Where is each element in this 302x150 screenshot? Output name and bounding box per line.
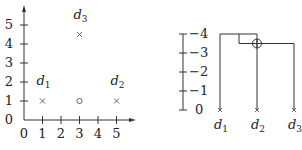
y-tick-label: 3 [5,55,13,70]
y-axis-arrow-icon [22,5,26,12]
figure: 012345012345 d1d2d3 0−1−2−3−4 d1d2d3 [0,0,302,150]
x-tick-label: 5 [112,126,120,141]
cross-marker [77,32,82,37]
dendrogram-tick-label: 0 [195,102,203,117]
point-label: d3 [74,7,88,24]
y-tick-label: 5 [5,17,13,32]
leaf-label: d3 [288,117,302,134]
y-tick-label: 0 [5,112,13,127]
cross-marker [40,99,45,104]
point-label: d1 [37,73,51,90]
dendrogram-tick-label: −3 [189,45,208,60]
x-tick-label: 1 [38,126,46,141]
x-axis-arrow-icon [129,118,136,122]
x-tick-label: 3 [75,126,83,141]
circle-plus-icon [253,39,262,48]
dendrogram-tick-label: −2 [189,64,208,79]
leaf-label: d2 [251,117,265,134]
circle-marker [77,98,82,103]
dendrogram-tick-label: −1 [189,83,208,98]
x-tick-label: 0 [20,126,28,141]
x-tick-label: 2 [57,126,65,141]
y-tick-label: 4 [5,36,13,51]
point-label: d2 [111,73,125,90]
dendrogram: 0−1−2−3−4 d1d2d3 [179,26,302,134]
x-tick-label: 4 [94,126,102,141]
scatter-plot: 012345012345 d1d2d3 [5,5,136,141]
y-tick-label: 2 [5,74,13,89]
cross-marker [114,99,119,104]
dendrogram-tick-label: −4 [189,26,208,41]
leaf-label: d1 [214,117,228,134]
y-tick-label: 1 [5,93,13,108]
